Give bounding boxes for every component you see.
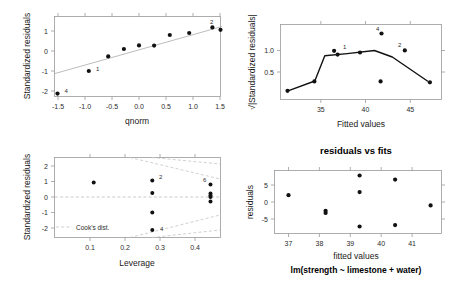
x-tick-label: 0.4 [190,244,200,251]
x-tick-label: 39 [346,240,354,247]
x-tick-label: -1.0 [79,103,91,110]
scale-location-plot: 35 40 45 1.0 0.5 [235,0,470,142]
point-label: 4 [160,226,164,232]
data-points [55,25,222,95]
point-label: 6 [203,177,207,183]
y-tick-label: -1 [42,209,48,216]
x-tick-label: 0.1 [85,244,95,251]
plot-box [281,25,442,100]
r-diagnostic-plots-figure: -1.5 -1.0 -0.5 0.0 0.5 1.0 1.5 1 0 -1 -2 [0,0,470,284]
point-label: 1 [96,66,100,72]
y-axis-ticks [51,31,55,91]
point-label: 2 [398,42,402,48]
y-tick-label: 5 [264,182,268,189]
model-formula-subtitle: lm(strength ~ limestone + water) [291,265,422,275]
x-axis-ticks [58,13,220,100]
point-label: 2 [159,174,163,180]
point-label: 4 [376,26,380,32]
y-tick-label: -1 [42,68,48,75]
qq-reference-line [55,27,222,74]
plot-box [55,17,221,97]
residuals-vs-fits-plot: residuals vs fits 37 38 39 40 41 [235,142,470,284]
x-tick-label: 0.0 [134,103,144,110]
y-tick-label: 2 [44,163,48,170]
panel-normal-qq: -1.5 -1.0 -0.5 0.0 0.5 1.0 1.5 1 0 -1 -2 [0,0,235,142]
point-label: 2 [210,19,214,25]
x-tick-label: 0.3 [155,244,165,251]
x-tick-label: 0.2 [120,244,130,251]
x-axis-ticks [321,21,411,103]
x-axis-title: fitted values [333,251,378,261]
y-axis-ticks [271,185,445,219]
residuals-vs-leverage-plot: 0.1 0.2 0.3 0.4 2 1 0 -1 -2 [0,142,235,284]
y-tick-label: -2 [42,225,48,232]
y-tick-label: 1 [44,178,48,185]
y-axis-title: Standardized residuals [22,154,32,240]
x-tick-label: 0.5 [161,103,171,110]
y-axis-title: residuals [245,185,255,219]
data-points [92,179,213,232]
x-axis-title: Leverage [119,258,155,268]
x-tick-label: 37 [285,240,293,247]
x-tick-label: 35 [317,106,325,113]
y-tick-label: 0 [44,48,48,55]
x-tick-label: 38 [316,240,324,247]
point-label: 4 [65,88,69,94]
y-tick-label: 0 [44,194,48,201]
y-tick-label: 0 [264,199,268,206]
x-axis-title: Fitted values [337,119,385,129]
x-tick-label: 1.0 [188,103,198,110]
x-tick-label: -1.5 [52,103,64,110]
panel-residuals-vs-fits: residuals vs fits 37 38 39 40 41 [235,142,470,284]
cooks-dist-legend-label: Cook's dist. [76,224,110,231]
plot-box [275,171,442,234]
x-tick-label: -0.5 [106,103,118,110]
x-tick-label: 45 [406,106,414,113]
y-tick-label: 0.5 [264,69,274,76]
y-tick-label: -5 [262,216,268,223]
y-axis-title: Standardized residuals [22,13,32,99]
x-tick-label: 40 [362,106,370,113]
loess-smoother-line [288,51,427,91]
plot-title: residuals vs fits [320,145,392,156]
y-axis-title: √|Standardized residuals| [247,14,257,110]
normal-qq-plot: -1.5 -1.0 -0.5 0.0 0.5 1.0 1.5 1 0 -1 -2 [0,0,235,142]
y-tick-label: 1 [44,28,48,35]
x-tick-label: 40 [377,240,385,247]
panel-residuals-vs-leverage: 0.1 0.2 0.3 0.4 2 1 0 -1 -2 [0,142,235,284]
y-axis-ticks [51,166,55,228]
y-tick-label: -2 [42,88,48,95]
x-tick-label: 1.5 [215,103,225,110]
x-tick-label: 41 [408,240,416,247]
panel-scale-location: 35 40 45 1.0 0.5 [235,0,470,142]
x-axis-title: qnorm [125,116,149,126]
data-points [286,173,432,228]
point-label: 1 [343,44,347,50]
y-tick-label: 1.0 [264,47,274,54]
cooks-distance-contours [130,158,220,238]
